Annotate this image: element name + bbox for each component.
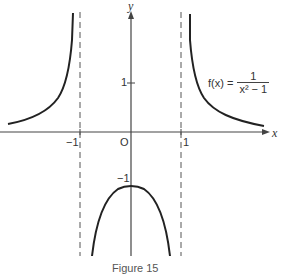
function-label: f(x) = 1 x² − 1 — [208, 70, 269, 95]
curve-left-branch — [8, 13, 73, 124]
x-axis-arrow-icon — [262, 129, 270, 135]
y-tick-label-neg1: −1 — [117, 173, 130, 184]
x-axis-label: x — [272, 127, 277, 139]
formula-lhs: f(x) = — [208, 77, 233, 89]
formula-fraction: 1 x² − 1 — [237, 70, 269, 95]
y-tick-label-1: 1 — [121, 77, 127, 88]
origin-label: O — [120, 137, 129, 148]
formula-denominator: x² − 1 — [237, 83, 269, 95]
figure-caption: Figure 15 — [112, 262, 158, 274]
formula-numerator: 1 — [248, 70, 258, 82]
y-axis-label: y — [128, 0, 133, 12]
x-tick-label-neg1: −1 — [66, 137, 79, 148]
x-tick-label-1: 1 — [183, 137, 189, 148]
